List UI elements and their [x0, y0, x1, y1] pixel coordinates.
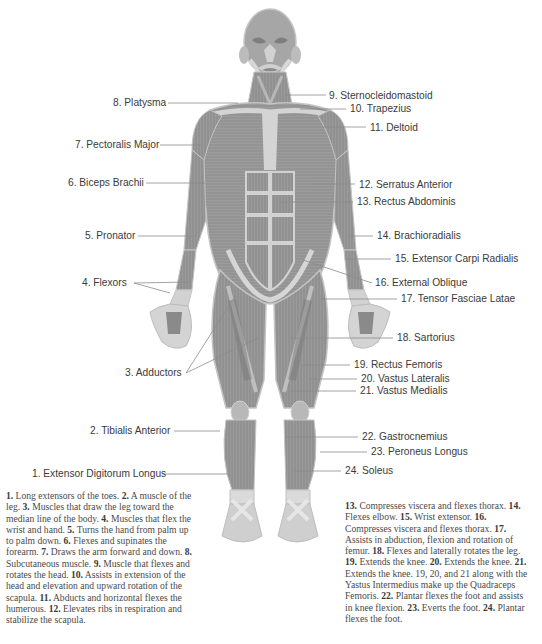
description-text: Draws the arm forward and down. — [48, 546, 184, 557]
label-extensor-digitorum-longus: 1. Extensor Digitorum Longus — [32, 468, 166, 480]
description-text: Wrist extensor. — [412, 511, 474, 522]
description-number: 13. — [345, 500, 357, 511]
label-rectus-femoris: 19. Rectus Femoris — [354, 359, 442, 371]
description-text: Compresses viscera and flexes thorax. — [357, 500, 509, 511]
head — [239, 9, 301, 75]
label-vastus-medialis: 21. Vastus Medialis — [360, 385, 448, 397]
descriptions-left: 1. Long extensors of the toes. 2. A musc… — [6, 490, 192, 626]
description-number: 12. — [49, 603, 61, 614]
label-adductors: 3. Adductors — [125, 367, 182, 379]
description-text: Extends the knee. — [442, 556, 515, 567]
label-pronator: 5. Pronator — [85, 230, 135, 242]
description-text: Flexes elbow. — [345, 511, 400, 522]
label-deltoid: 11. Deltoid — [370, 122, 418, 134]
description-number: 9. — [94, 558, 101, 569]
description-text: Flexes and laterally rotates the leg. — [384, 545, 520, 556]
label-brachioradialis: 14. Brachioradialis — [377, 230, 461, 242]
description-number: 4. — [101, 513, 108, 524]
left-leg — [212, 270, 266, 542]
description-number: 19. — [345, 556, 357, 567]
description-text: Long extensors of the toes. — [13, 490, 121, 501]
label-sartorius: 18. Sartorius — [397, 332, 455, 344]
description-number: 21. — [514, 556, 526, 567]
label-pectoralis-major: 7. Pectoralis Major — [75, 139, 159, 151]
label-tibialis-anterior: 2. Tibialis Anterior — [90, 425, 170, 437]
description-number: 20. — [430, 556, 442, 567]
label-flexors: 4. Flexors — [82, 277, 127, 289]
description-number: 16. — [474, 511, 486, 522]
description-number: 17. — [494, 523, 506, 534]
description-number: 15. — [400, 511, 412, 522]
right-leg — [274, 270, 328, 542]
label-extensor-carpi-radialis: 15. Extensor Carpi Radialis — [395, 253, 518, 265]
label-external-oblique: 16. External Oblique — [375, 277, 467, 289]
neck — [248, 72, 292, 104]
label-peroneus-longus: 23. Peroneus Longus — [371, 446, 468, 458]
left-arm — [150, 150, 206, 348]
label-platysma: 8. Platysma — [113, 97, 166, 109]
label-serratus-anterior: 12. Serratus Anterior — [359, 179, 452, 191]
description-number: 6. — [64, 535, 71, 546]
description-number: 14. — [509, 500, 521, 511]
description-number: 10. — [71, 569, 83, 580]
description-number: 2. — [122, 490, 129, 501]
description-number: 3. — [23, 501, 30, 512]
description-number: 24. — [483, 602, 495, 613]
description-text: Compresses viscera and flexes thorax. — [345, 523, 494, 534]
label-sternocleidomastoid: 9. Sternocleidomastoid — [329, 90, 433, 102]
description-text: Everts the foot. — [419, 602, 483, 613]
label-trapezius: 10. Trapezius — [350, 103, 411, 115]
description-number: 23. — [407, 602, 419, 613]
description-number: 18. — [372, 545, 384, 556]
description-number: 11. — [40, 592, 51, 603]
label-gastrocnemius: 22. Gastrocnemius — [362, 431, 448, 443]
description-number: 22. — [381, 590, 393, 601]
label-tensor-fasciae-latae: 17. Tensor Fasciae Latae — [401, 293, 515, 305]
label-biceps-brachii: 6. Biceps Brachii — [68, 177, 144, 189]
description-number: 5. — [67, 524, 74, 535]
description-number: 8. — [185, 546, 192, 557]
label-soleus: 24. Soleus — [345, 465, 393, 477]
label-rectus-abdominis: 13. Rectus Abdominis — [357, 196, 456, 208]
description-text: Subcutaneous muscle. — [6, 558, 94, 569]
label-vastus-lateralis: 20. Vastus Lateralis — [361, 373, 450, 385]
description-text: Extends the knee. — [357, 556, 430, 567]
descriptions-right: 13. Compresses viscera and flexes thorax… — [345, 500, 531, 624]
